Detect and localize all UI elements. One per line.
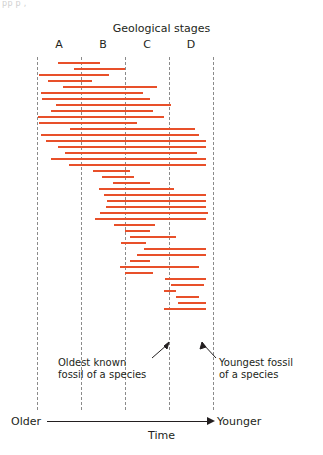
annotation-youngest-fossil: Youngest fossil of a species: [219, 357, 315, 381]
species-range-bar: [171, 284, 204, 286]
species-range-bar: [46, 140, 206, 142]
annotation-youngest-line1: Youngest fossil: [219, 357, 315, 369]
species-range-bar: [41, 92, 143, 94]
species-range-bar: [58, 62, 100, 64]
species-range-bar: [164, 290, 176, 292]
species-range-bar: [51, 158, 206, 160]
axis-arrow-icon: [207, 417, 215, 425]
species-range-bar: [114, 224, 154, 226]
species-range-bar: [56, 104, 170, 106]
species-range-bar: [144, 248, 206, 250]
species-range-bar: [63, 86, 156, 88]
species-range-bar: [102, 176, 134, 178]
species-range-bar: [39, 122, 138, 124]
species-range-bar: [70, 128, 195, 130]
species-range-bar: [48, 80, 92, 82]
axis-label-younger: Younger: [217, 415, 261, 428]
species-range-bar: [176, 296, 199, 298]
annotation-oldest-fossil: Oldest known fossil of a species: [58, 357, 150, 381]
species-range-bar: [125, 272, 153, 274]
species-range-bar: [113, 182, 150, 184]
species-range-bar: [106, 206, 206, 208]
species-range-bar: [51, 110, 153, 112]
species-range-bar: [178, 302, 206, 304]
species-range-bar: [104, 194, 206, 196]
species-range-bar: [100, 212, 207, 214]
stage-boundary-4: [213, 57, 214, 410]
axis-line: [47, 421, 210, 422]
species-range-bar: [42, 98, 149, 100]
species-range-bar: [130, 236, 176, 238]
species-range-bar: [164, 308, 206, 310]
species-range-bar: [74, 68, 125, 70]
species-range-bar: [93, 170, 130, 172]
species-range-bar: [165, 278, 205, 280]
species-range-bar: [107, 200, 206, 202]
time-axis: Older Younger Time: [0, 406, 323, 455]
species-range-bar: [39, 74, 109, 76]
annotation-oldest-line1: Oldest known: [58, 357, 150, 369]
species-range-bar: [137, 254, 206, 256]
species-range-bar: [95, 218, 206, 220]
stratigraphic-range-chart: Geological stages ABCD Oldest known foss…: [0, 0, 323, 455]
species-range-bar: [58, 146, 206, 148]
species-range-bar: [130, 260, 149, 262]
species-range-bar: [121, 242, 146, 244]
annotation-youngest-line2: of a species: [219, 369, 315, 381]
species-range-bar: [120, 266, 199, 268]
stage-label-a: A: [47, 38, 71, 51]
annotation-oldest-line2: fossil of a species: [58, 369, 150, 381]
stage-label-c: C: [135, 38, 159, 51]
species-range-bar: [69, 164, 206, 166]
axis-label-older: Older: [11, 415, 41, 428]
species-range-bar: [38, 116, 164, 118]
stage-label-d: D: [179, 38, 203, 51]
stage-boundary-3: [169, 57, 170, 410]
species-range-bar: [99, 188, 175, 190]
species-range-bar: [65, 152, 197, 154]
stage-boundary-0: [37, 57, 38, 410]
stage-label-b: B: [91, 38, 115, 51]
species-range-bar: [41, 134, 199, 136]
species-range-bar: [125, 230, 150, 232]
axis-label-time: Time: [0, 429, 323, 442]
